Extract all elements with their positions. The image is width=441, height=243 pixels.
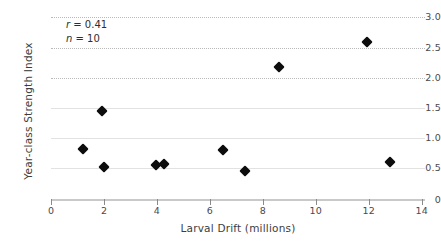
scatter-plot-figure: 00.51.01.52.02.53.0 02468101214 r = 0.41… bbox=[0, 0, 441, 243]
x-tick-label: 4 bbox=[142, 205, 172, 216]
x-tick-label: 12 bbox=[354, 205, 384, 216]
x-tick-label: 6 bbox=[195, 205, 225, 216]
y-axis-title: Year-class Strength Index bbox=[22, 31, 34, 191]
data-point bbox=[384, 157, 395, 168]
annotation-n: n = 10 bbox=[66, 32, 107, 46]
data-point bbox=[274, 61, 285, 72]
x-tick-label: 8 bbox=[248, 205, 278, 216]
annotation-n-value: = 10 bbox=[72, 33, 99, 44]
y-tick-label: 1.0 bbox=[397, 132, 441, 143]
data-point bbox=[78, 143, 89, 154]
y-tick-label: 1.5 bbox=[397, 102, 441, 113]
y-tick-label: 2.0 bbox=[397, 72, 441, 83]
plot-area: 00.51.01.52.02.53.0 02468101214 r = 0.41… bbox=[0, 0, 441, 243]
x-tick-label: 0 bbox=[36, 205, 66, 216]
statistics-annotation: r = 0.41 n = 10 bbox=[66, 18, 107, 46]
y-tick-label: 2.5 bbox=[397, 42, 441, 53]
gridline bbox=[51, 48, 425, 50]
annotation-r-value: = 0.41 bbox=[70, 19, 107, 30]
data-point bbox=[217, 145, 228, 156]
x-tick-label: 14 bbox=[407, 205, 437, 216]
gridline bbox=[51, 78, 425, 80]
gridline bbox=[51, 138, 425, 140]
annotation-r: r = 0.41 bbox=[66, 18, 107, 32]
data-point bbox=[361, 36, 372, 47]
y-tick-label: 3.0 bbox=[397, 11, 441, 22]
x-tick-label: 10 bbox=[301, 205, 331, 216]
data-point bbox=[99, 161, 110, 172]
x-tick-label: 2 bbox=[89, 205, 119, 216]
y-tick-label: 0.5 bbox=[397, 162, 441, 173]
x-axis-title: Larval Drift (millions) bbox=[51, 222, 425, 234]
